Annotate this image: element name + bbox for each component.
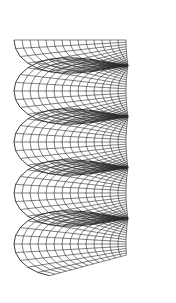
helicoid-figure — [0, 0, 176, 303]
helicoid-wireframe — [0, 0, 176, 303]
